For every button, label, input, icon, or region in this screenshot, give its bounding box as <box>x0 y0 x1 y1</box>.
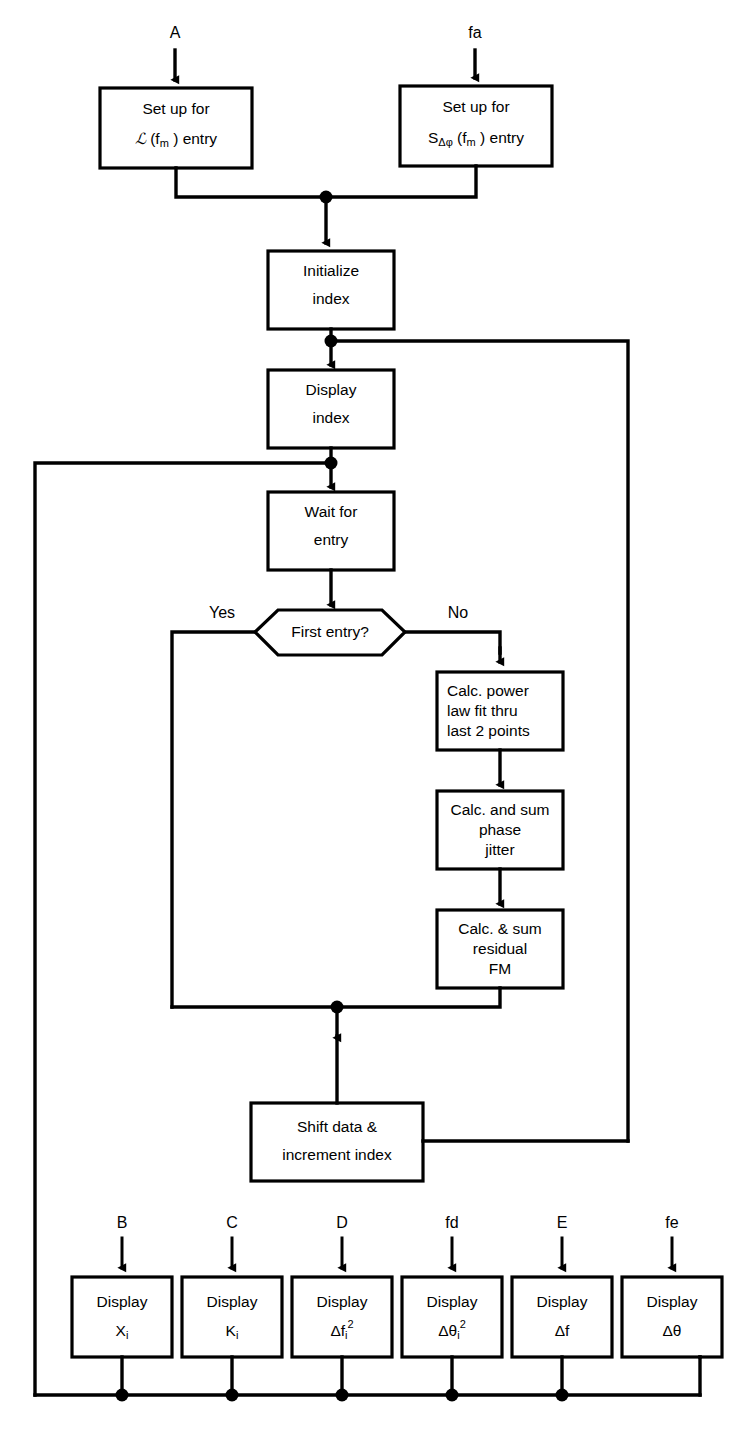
port-label-B: B <box>117 1214 128 1231</box>
node-setup-s-dphi-line1: Set up for <box>442 98 509 115</box>
port-label-fa: fa <box>468 24 481 41</box>
node-display-dtheta <box>622 1277 722 1357</box>
port-label-E: E <box>557 1214 568 1231</box>
node-display-dtheta-value: Δθ <box>663 1322 682 1339</box>
node-wait-for-entry-line1: Wait for <box>305 503 358 520</box>
node-display-dthetai2 <box>402 1277 502 1357</box>
node-setup-script-l-line1: Set up for <box>142 100 209 117</box>
node-display-dfi2-line1: Display <box>317 1293 368 1310</box>
flowchart-canvas: A fa Set up for ℒ (fm ) entry Set up for… <box>0 0 743 1430</box>
junction-dot-bus-1 <box>116 1389 129 1402</box>
node-initialize-index-line1: Initialize <box>303 262 359 279</box>
junction-dot-bus-3 <box>336 1389 349 1402</box>
merge-branches <box>172 988 500 1038</box>
node-display-xi <box>72 1277 172 1357</box>
node-shift-data <box>251 1103 423 1181</box>
edge-label-yes: Yes <box>209 604 235 621</box>
node-calc-phase-jitter-line2: phase <box>479 821 521 838</box>
node-setup-script-l-line2: ℒ (fm ) entry <box>135 130 217 149</box>
node-display-dfi2 <box>292 1277 392 1357</box>
node-calc-phase-jitter-line1: Calc. and sum <box>450 801 549 818</box>
node-calc-power-law-line2: law fit thru <box>447 702 518 719</box>
edge-no-branch <box>405 632 500 653</box>
port-label-fe: fe <box>665 1214 678 1231</box>
node-display-df-line1: Display <box>537 1293 588 1310</box>
junction-dot-bus-5 <box>556 1389 569 1402</box>
node-initialize-index-line2: index <box>312 290 349 307</box>
junction-dot-bus-2 <box>226 1389 239 1402</box>
bottom-collector-bus <box>35 1357 700 1402</box>
node-shift-data-line1: Shift data & <box>297 1118 378 1135</box>
node-display-ki-line1: Display <box>207 1293 258 1310</box>
node-display-df-value: Δf <box>555 1322 570 1339</box>
port-label-fd: fd <box>445 1214 458 1231</box>
node-calc-power-law-line1: Calc. power <box>447 682 529 699</box>
node-calc-residual-fm-line3: FM <box>489 960 511 977</box>
node-display-xi-line1: Display <box>97 1293 148 1310</box>
node-first-entry-label: First entry? <box>291 623 369 640</box>
node-calc-residual-fm-line1: Calc. & sum <box>458 920 542 937</box>
node-display-df <box>512 1277 612 1357</box>
port-label-D: D <box>336 1214 348 1231</box>
port-label-A: A <box>170 24 181 41</box>
node-display-ki <box>182 1277 282 1357</box>
port-label-C: C <box>226 1214 238 1231</box>
node-display-index-line2: index <box>312 409 349 426</box>
node-display-dthetai2-line1: Display <box>427 1293 478 1310</box>
node-display-dtheta-line1: Display <box>647 1293 698 1310</box>
node-wait-for-entry-line2: entry <box>314 531 349 548</box>
edge-yes-branch <box>172 632 255 1007</box>
node-calc-phase-jitter-line3: jitter <box>484 841 514 858</box>
edge-label-no: No <box>448 604 469 621</box>
merge-setup-paths <box>176 166 476 243</box>
node-shift-data-line2: increment index <box>282 1146 392 1163</box>
junction-dot-bus-4 <box>446 1389 459 1402</box>
loop-junction-left-return <box>35 448 338 1395</box>
node-calc-power-law-line3: last 2 points <box>447 722 530 739</box>
flowchart-svg: A fa Set up for ℒ (fm ) entry Set up for… <box>0 0 743 1430</box>
node-calc-residual-fm-line2: residual <box>473 940 527 957</box>
node-display-index-line1: Display <box>306 381 357 398</box>
